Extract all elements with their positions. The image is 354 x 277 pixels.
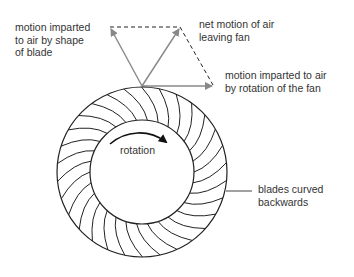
fan-blade [92, 203, 100, 242]
fan-blade [184, 103, 192, 141]
fan-blade [79, 116, 117, 128]
label-line: rotation [120, 144, 155, 156]
fan-blade [177, 211, 216, 216]
shape-motion-arrow [111, 29, 142, 86]
label-line: to air by shape [15, 34, 90, 47]
label-line: motion imparted [15, 21, 90, 34]
label-line: backwards [258, 196, 323, 209]
inner-ring [90, 120, 194, 224]
label-line: leaving fan [199, 31, 274, 44]
rotation-arrow-icon [110, 133, 166, 144]
vector-diagram [110, 27, 213, 86]
fan-blade [68, 128, 107, 133]
fan [57, 87, 227, 257]
fan-blade [147, 224, 177, 250]
label-rotation: rotation [120, 144, 155, 157]
label-line: by rotation of the fan [225, 82, 327, 95]
fan-blade [193, 163, 227, 183]
fan-blade [158, 222, 192, 241]
fan-blade [137, 224, 161, 255]
label-net-motion: net motion of air leaving fan [199, 18, 274, 43]
fan-blade [193, 129, 216, 161]
fan-blade [176, 94, 180, 133]
fan-blade [104, 211, 108, 250]
fan-blade [142, 87, 159, 123]
net-motion-arrow [142, 29, 179, 86]
fan-blade [168, 217, 206, 229]
fan-blade [115, 217, 125, 255]
outer-ring [57, 87, 227, 257]
fan-blade [194, 145, 223, 172]
label-blades: blades curved backwards [258, 183, 323, 208]
fan-blade [69, 183, 92, 215]
label-rotation-motion: motion imparted to air by rotation of th… [225, 69, 327, 94]
fan-blade [124, 89, 148, 120]
fan-blade [184, 198, 223, 205]
fan-blade [159, 89, 169, 127]
label-line: blades curved [258, 183, 323, 196]
label-shape-motion: motion imparted to air by shape of blade [15, 21, 90, 59]
fan-blade [58, 161, 92, 181]
label-line: net motion of air [199, 18, 274, 31]
fan-blade [92, 104, 126, 123]
fan-blade [126, 222, 143, 258]
fan-blade [107, 95, 137, 121]
blades [57, 87, 226, 257]
fan-blade [61, 140, 100, 147]
label-line: motion imparted to air [225, 69, 327, 82]
label-line: of blade [15, 46, 90, 59]
fan-blade [61, 172, 90, 199]
